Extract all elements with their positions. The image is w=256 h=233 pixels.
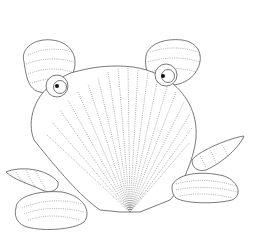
left-eye (46, 75, 68, 97)
right-foot-shell (172, 173, 238, 203)
left-leg-cone-shell (6, 169, 58, 192)
right-eye (155, 64, 177, 86)
left-foot-shell (15, 192, 87, 230)
right-leg-cone-shell (192, 136, 244, 171)
seashell-crab-illustration (0, 0, 256, 233)
